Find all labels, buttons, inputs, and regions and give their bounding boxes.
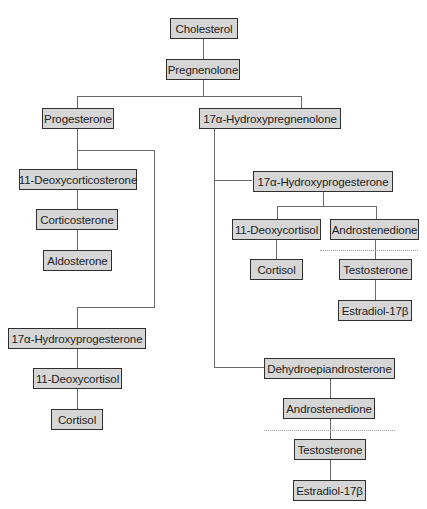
edge-to-hydroxyprogesterone-right xyxy=(214,180,252,181)
node-progesterone: Progesterone xyxy=(42,108,114,129)
edge-deoxycortisol-left-cortisol xyxy=(77,389,78,409)
edge-progesterone-side-back xyxy=(77,307,155,308)
node-aldosterone: Aldosterone xyxy=(43,250,112,271)
dotted-divider-right xyxy=(320,250,418,251)
node-corticosterone: Corticosterone xyxy=(36,209,118,230)
edge-androstenedione-lower-testosterone xyxy=(330,418,331,439)
edge-progesterone-deoxycorticosterone xyxy=(77,128,78,169)
node-testosterone-lower: Testosterone xyxy=(294,439,366,460)
edge-progesterone-side-down xyxy=(154,150,155,307)
edge-cholesterol-pregnenolone xyxy=(203,38,204,59)
edge-hydroxyprogesterone-left-deoxycortisol xyxy=(77,348,78,368)
node-androstenedione-lower: Androstenedione xyxy=(283,398,375,419)
dotted-divider-lower xyxy=(264,430,395,431)
edge-hydroxyprogesterone-right-branch xyxy=(277,206,377,207)
edge-branch-deoxycortisol-right xyxy=(277,206,278,219)
edge-hydroxyprogesterone-right-down xyxy=(323,191,324,206)
edge-progesterone-side xyxy=(77,150,154,151)
edge-hydroxypregnenolone-down xyxy=(214,128,215,368)
edge-to-dhea xyxy=(214,367,264,368)
edge-branch-progesterone xyxy=(77,96,78,108)
edge-deoxycorticosterone-corticosterone xyxy=(77,189,78,209)
edge-pregnenolone-down xyxy=(203,79,204,96)
node-11-deoxycorticosterone: 11-Deoxycorticosterone xyxy=(19,169,137,190)
node-11-deoxycortisol-left: 11-Deoxycortisol xyxy=(33,368,122,389)
edge-testosterone-right-estradiol xyxy=(375,279,376,300)
node-estradiol-17b-right: Estradiol-17β xyxy=(338,300,412,321)
edge-deoxycortisol-right-cortisol xyxy=(276,239,277,259)
node-cortisol-left: Cortisol xyxy=(51,409,103,430)
edge-androstenedione-right-testosterone xyxy=(375,239,376,259)
node-17a-hydroxyprogesterone-right: 17α-Hydroxyprogesterone xyxy=(253,171,393,192)
edge-pregnenolone-branch xyxy=(77,96,302,97)
node-testosterone-right: Testosterone xyxy=(339,259,412,280)
edge-dhea-androstenedione xyxy=(330,378,331,398)
node-estradiol-17b-lower: Estradiol-17β xyxy=(293,480,366,501)
steroid-pathway-diagram: Cholesterol Pregnenolone Progesterone 17… xyxy=(0,0,427,509)
edge-testosterone-lower-estradiol xyxy=(330,459,331,480)
edge-corticosterone-aldosterone xyxy=(77,230,78,250)
node-dehydroepiandrosterone: Dehydroepiandrosterone xyxy=(264,358,395,379)
node-cholesterol: Cholesterol xyxy=(170,18,238,39)
edge-branch-androstenedione-right xyxy=(376,206,377,219)
edge-side-hydroxyprogesterone-left xyxy=(77,307,78,328)
edge-branch-hydroxypregnenolone xyxy=(301,96,302,108)
node-pregnenolone: Pregnenolone xyxy=(166,59,240,80)
node-11-deoxycortisol-right: 11-Deoxycortisol xyxy=(232,219,321,240)
node-androstenedione-right: Androstenedione xyxy=(330,219,419,240)
node-17a-hydroxyprogesterone-left: 17α-Hydroxyprogesterone xyxy=(8,328,146,349)
node-17a-hydroxypregnenolone: 17α-Hydroxypregnenolone xyxy=(199,108,341,129)
node-cortisol-right: Cortisol xyxy=(250,259,303,280)
